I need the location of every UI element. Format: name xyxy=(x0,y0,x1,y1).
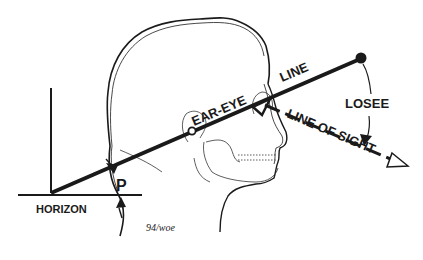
losee-label: LOSEE xyxy=(345,96,389,111)
horizon-label: HORIZON xyxy=(36,203,87,215)
losee-angle-arc-lower xyxy=(367,116,369,138)
line-of-sight-arrowhead-icon xyxy=(387,153,408,167)
p-lower-arrowhead-icon xyxy=(116,197,126,208)
ear-eye-line-diagram: EAR-EYE LINE LOSEE LINE OF SIGHT P HORIZ… xyxy=(0,0,423,260)
line-of-sight-label: LINE OF SIGHT xyxy=(285,106,378,157)
end-dot-icon xyxy=(356,53,367,64)
losee-angle-arc xyxy=(363,64,371,94)
p-angle-label: P xyxy=(116,177,127,194)
artist-signature: 94/woe xyxy=(146,222,175,233)
